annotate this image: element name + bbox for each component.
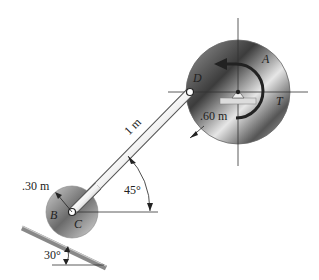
label-a: A <box>261 52 270 66</box>
pin-d <box>187 89 194 96</box>
label-incline-angle: 30° <box>44 248 61 262</box>
mechanism-diagram: A D T .60 m 1 m 45° .30 m B C 30° <box>0 0 319 280</box>
pivot-a <box>236 90 240 94</box>
label-d: D <box>192 71 202 85</box>
label-c: C <box>74 217 83 231</box>
angle-arc-30-arrowhead2-icon <box>63 259 69 265</box>
label-radius-a: .60 m <box>200 109 228 123</box>
label-rod-length: 1 m <box>121 115 144 138</box>
support-base <box>220 98 256 104</box>
label-radius-b: .30 m <box>22 179 50 193</box>
label-b: B <box>50 208 58 222</box>
angle-arc-45-arrowhead-icon <box>147 203 153 211</box>
label-rod-angle: 45° <box>124 183 141 197</box>
